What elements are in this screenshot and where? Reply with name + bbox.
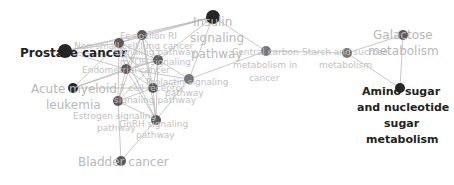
node-label: pathway	[136, 130, 175, 140]
node-label: signaling pathway	[114, 47, 196, 57]
node-label: GnRH signaling	[119, 119, 188, 129]
node-label: Bladder cancer	[78, 156, 169, 170]
node-label: metabolism in	[233, 60, 297, 70]
node-label: Fc epsilon RI	[120, 31, 177, 41]
network-edge	[400, 35, 403, 88]
node-label: signaling	[190, 32, 244, 46]
node-label: Endometrial cancer	[82, 65, 170, 75]
node-label: metabolism	[366, 134, 439, 147]
node-label: metabolism	[368, 45, 439, 59]
node-label: Insulin	[193, 16, 232, 30]
node-label: sugar	[384, 118, 419, 131]
node-label: metabolism	[319, 60, 372, 70]
node-label: cancer	[249, 73, 279, 83]
node-label: Galactose	[373, 29, 433, 43]
node-label: Amino sugar	[362, 86, 440, 99]
node-label: and nucleotide	[357, 102, 449, 115]
node-label: T cell receptor	[120, 83, 185, 93]
node-label: Central carbon	[232, 47, 299, 57]
node-label: signaling pathway	[114, 95, 196, 105]
node-label: Acute myeloid	[31, 83, 117, 97]
